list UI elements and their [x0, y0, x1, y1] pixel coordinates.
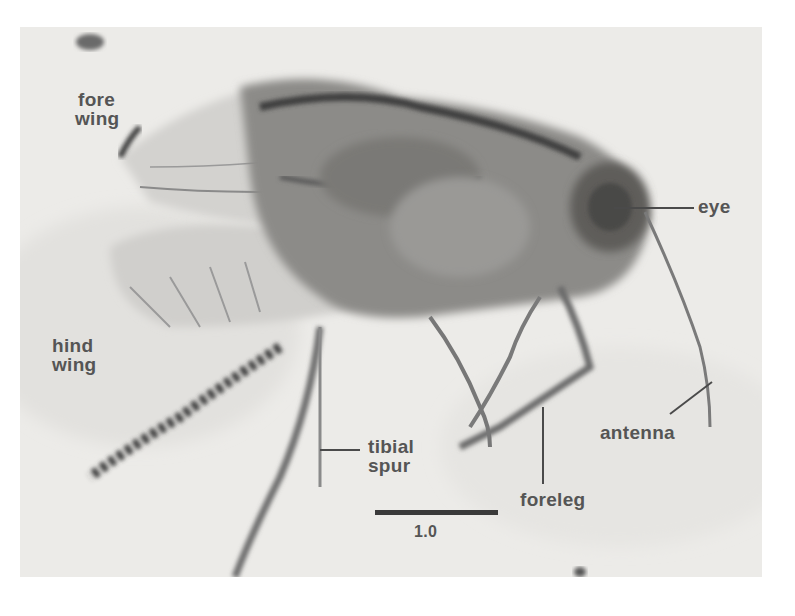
label-hind-wing: hind wing [52, 336, 96, 374]
label-eye: eye [698, 197, 731, 216]
fossil-photograph [20, 27, 762, 577]
tibial-spur-leader-line [320, 449, 360, 451]
label-tibial-spur-line1: tibial [368, 437, 414, 456]
label-foreleg: foreleg [520, 490, 585, 509]
label-fore-wing-line2: wing [75, 109, 119, 128]
label-fore-wing: fore wing [78, 90, 119, 128]
label-hind-wing-line2: wing [52, 355, 96, 374]
antenna-leader-line [668, 380, 718, 420]
scale-bar [375, 510, 498, 515]
foreleg-leader-line [542, 407, 544, 484]
label-fore-wing-line1: fore [78, 90, 119, 109]
fossil-specimen-drawing [20, 27, 762, 577]
label-hind-wing-line1: hind [52, 336, 96, 355]
eye-leader-line [614, 207, 694, 209]
label-tibial-spur: tibial spur [368, 437, 414, 475]
label-antenna: antenna [600, 423, 675, 442]
scale-bar-label: 1.0 [414, 522, 437, 541]
label-tibial-spur-line2: spur [368, 456, 414, 475]
